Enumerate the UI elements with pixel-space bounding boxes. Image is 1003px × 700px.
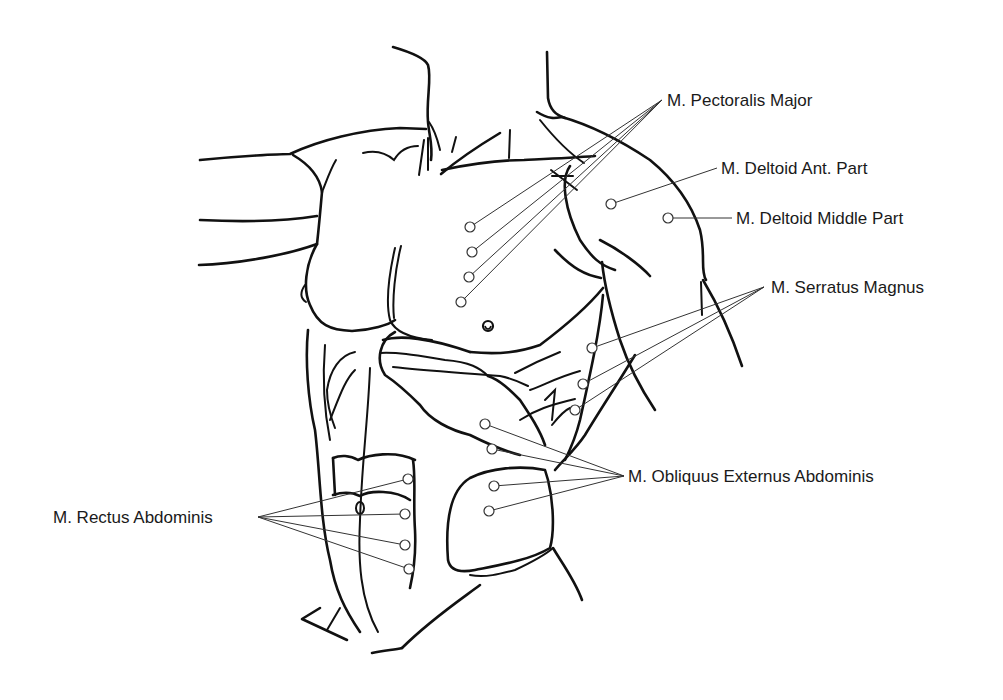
site-marker-obliquus-externus-1 [480, 419, 490, 429]
site-marker-pectoralis-major-3 [464, 272, 474, 282]
site-marker-rectus-abdominis-2 [400, 509, 410, 519]
leader-line-serratus-magnus [587, 287, 764, 382]
site-marker-obliquus-externus-4 [484, 506, 494, 516]
leader-line-pectoralis-major [473, 100, 662, 274]
site-marker-pectoralis-major-4 [456, 297, 466, 307]
site-marker-obliquus-externus-3 [489, 481, 499, 491]
label-deltoid-middle-part: M. Deltoid Middle Part [736, 210, 903, 227]
leader-line-rectus-abdominis [258, 480, 403, 517]
leader-lines [258, 100, 764, 567]
site-marker-serratus-magnus-2 [578, 379, 588, 389]
leader-line-obliquus-externus [497, 450, 624, 476]
site-marker-deltoid-ant-1 [606, 199, 616, 209]
label-rectus-abdominis: M. Rectus Abdominis [53, 509, 213, 526]
leader-line-deltoid-ant [616, 168, 717, 202]
label-deltoid-ant-part: M. Deltoid Ant. Part [721, 160, 867, 177]
site-marker-rectus-abdominis-1 [403, 474, 413, 484]
site-marker-deltoid-middle-1 [663, 213, 673, 223]
site-marker-pectoralis-major-1 [465, 222, 475, 232]
site-marker-rectus-abdominis-3 [400, 540, 410, 550]
leader-line-rectus-abdominis [258, 514, 400, 517]
site-markers [400, 199, 673, 574]
label-pectoralis-major: M. Pectoralis Major [667, 92, 812, 109]
torso-diagram [0, 0, 1003, 700]
label-obliquus-externus-abdominis: M. Obliquus Externus Abdominis [628, 468, 874, 485]
site-marker-obliquus-externus-2 [487, 444, 497, 454]
label-serratus-magnus: M. Serratus Magnus [771, 279, 924, 296]
leader-line-pectoralis-major [465, 100, 662, 298]
torso-outline [199, 47, 742, 653]
leader-line-serratus-magnus [597, 287, 764, 346]
leader-line-pectoralis-major [476, 100, 662, 249]
site-marker-serratus-magnus-1 [587, 343, 597, 353]
leader-line-rectus-abdominis [258, 517, 400, 544]
site-marker-serratus-magnus-3 [570, 405, 580, 415]
site-marker-pectoralis-major-2 [467, 247, 477, 257]
site-marker-rectus-abdominis-4 [404, 564, 414, 574]
